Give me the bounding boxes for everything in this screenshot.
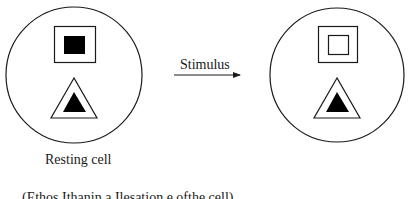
figure-caption-truncated: (Ethos Ithanin a Ilesation e ofthe cell) <box>22 191 233 199</box>
cell-membrane-circle <box>270 8 404 142</box>
stimulated-cell <box>270 8 404 142</box>
resting-cell <box>6 7 142 143</box>
inner-filled-square-icon <box>64 36 85 54</box>
resting-cell-label: Resting cell <box>45 153 112 167</box>
inner-hollow-square-icon <box>329 36 349 55</box>
inner-filled-triangle-icon <box>63 92 86 112</box>
outer-square-icon <box>319 27 358 63</box>
cell-membrane-circle <box>6 7 142 143</box>
diagram-canvas <box>0 0 410 199</box>
inner-filled-triangle-icon <box>326 92 349 112</box>
stimulus-label: Stimulus <box>180 58 230 72</box>
diagram: Stimulus Resting cell (Ethos Ithanin a I… <box>0 0 410 199</box>
